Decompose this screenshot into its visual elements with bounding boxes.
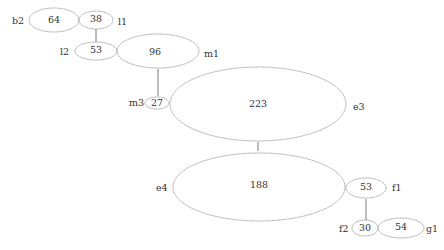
node-f2-label: f2	[339, 223, 349, 234]
node-e3[interactable]: 223 e3	[170, 67, 365, 141]
node-l2[interactable]: 53 l2	[60, 42, 117, 60]
node-m1-value: 96	[149, 46, 161, 57]
node-f1[interactable]: 53 f1	[346, 178, 402, 198]
node-f1-label: f1	[392, 182, 402, 193]
node-g1-label: g1	[426, 223, 438, 234]
node-e3-label: e3	[353, 101, 365, 112]
node-g1[interactable]: 54 g1	[378, 218, 438, 238]
node-e4[interactable]: 188 e4	[156, 153, 345, 221]
node-l1-value: 38	[90, 13, 102, 24]
node-b2[interactable]: 64 b2	[12, 8, 79, 32]
node-l2-value: 53	[90, 44, 102, 55]
node-m3-value: 27	[151, 97, 163, 108]
node-f2-value: 30	[359, 222, 371, 233]
node-e3-value: 223	[249, 98, 267, 109]
node-b2-label: b2	[12, 15, 24, 26]
node-e4-value: 188	[250, 179, 268, 190]
node-g1-value: 54	[395, 221, 407, 232]
node-m1[interactable]: 96 m1	[117, 34, 219, 68]
node-l1-label: l1	[118, 16, 127, 27]
node-m3-label: m3	[129, 97, 144, 108]
diagram-canvas: 64 b2 38 l1 53 l2 96 m1 27 m3 223 e3 188…	[0, 0, 444, 250]
node-e4-label: e4	[156, 182, 168, 193]
node-b2-value: 64	[48, 14, 60, 25]
node-l2-label: l2	[60, 46, 69, 57]
node-f2[interactable]: 30 f2	[339, 220, 378, 236]
node-f1-value: 53	[360, 181, 372, 192]
node-m1-label: m1	[204, 48, 219, 59]
node-l1[interactable]: 38 l1	[79, 11, 127, 29]
node-m3[interactable]: 27 m3	[129, 97, 169, 110]
